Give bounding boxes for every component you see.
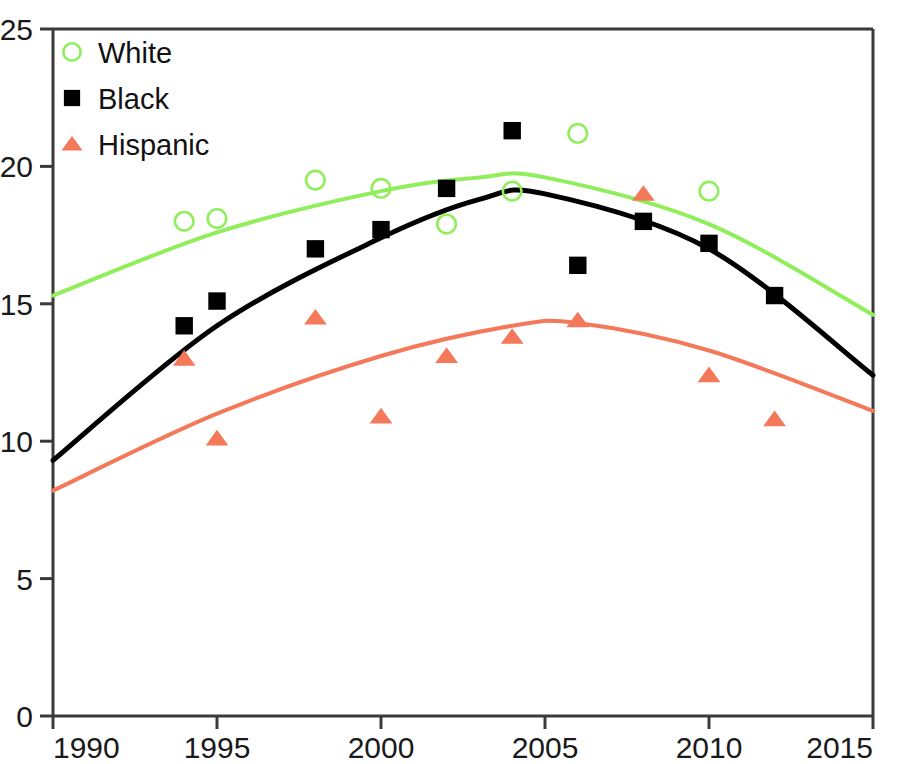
- marker-filled-triangle: [370, 408, 393, 424]
- y-axis-tick-label: 25: [0, 13, 33, 46]
- marker-open-circle: [569, 124, 588, 143]
- marker-filled-square: [208, 292, 225, 309]
- marker-filled-triangle: [566, 312, 589, 328]
- legend-entry-white: White: [63, 37, 172, 69]
- marker-open-circle: [700, 182, 719, 201]
- x-axis-ticks: [53, 716, 873, 729]
- series-markers-black: [176, 122, 784, 335]
- x-axis-tick-labels: 199019952000200520102015: [53, 731, 873, 764]
- trend-line-hispanic: [53, 321, 873, 491]
- marker-filled-triangle: [435, 347, 458, 363]
- marker-filled-square: [504, 122, 521, 139]
- legend-label-black: Black: [98, 83, 169, 115]
- marker-filled-square: [64, 90, 80, 106]
- legend-entry-hispanic: Hispanic: [61, 129, 209, 161]
- marker-filled-square: [176, 317, 193, 334]
- marker-filled-triangle: [501, 328, 524, 344]
- x-axis-tick-label: 2015: [806, 731, 873, 764]
- marker-filled-triangle: [304, 309, 327, 325]
- x-axis-tick-label: 2000: [348, 731, 415, 764]
- legend-entry-black: Black: [64, 83, 170, 115]
- y-axis-tick-label: 5: [16, 563, 33, 596]
- marker-open-circle: [175, 212, 194, 231]
- y-axis-ticks: [40, 29, 53, 716]
- x-axis-tick-label: 1990: [53, 731, 120, 764]
- marker-open-circle: [63, 43, 80, 60]
- marker-open-circle: [437, 215, 456, 234]
- marker-filled-triangle: [61, 136, 82, 151]
- marker-filled-square: [307, 240, 324, 257]
- legend-label-hispanic: Hispanic: [98, 129, 209, 161]
- marker-filled-triangle: [632, 185, 655, 201]
- marker-filled-square: [438, 180, 455, 197]
- y-axis-tick-label: 0: [16, 700, 33, 733]
- y-axis-tick-label: 20: [0, 150, 33, 183]
- marker-open-circle: [306, 171, 325, 190]
- marker-filled-triangle: [698, 367, 721, 383]
- marker-filled-square: [372, 221, 389, 238]
- y-axis-tick-label: 15: [0, 288, 33, 321]
- x-axis-tick-label: 1995: [184, 731, 251, 764]
- marker-filled-square: [569, 257, 586, 274]
- marker-filled-square: [635, 213, 652, 230]
- marker-open-circle: [208, 209, 227, 228]
- trend-line-white: [53, 173, 873, 314]
- marker-filled-square: [766, 287, 783, 304]
- marker-filled-triangle: [763, 411, 786, 427]
- y-axis-tick-label: 10: [0, 425, 33, 458]
- chart-plot-area: 0510152025 199019952000200520102015 Whit…: [0, 0, 904, 764]
- marker-filled-square: [700, 235, 717, 252]
- x-axis-tick-label: 2005: [512, 731, 579, 764]
- legend: WhiteBlackHispanic: [61, 37, 209, 161]
- chart-figure: 0510152025 199019952000200520102015 Whit…: [0, 0, 904, 764]
- marker-filled-triangle: [206, 430, 229, 446]
- series-markers-hispanic: [173, 185, 786, 445]
- legend-label-white: White: [98, 37, 172, 69]
- x-axis-tick-label: 2010: [676, 731, 743, 764]
- y-axis-tick-labels: 0510152025: [0, 13, 33, 733]
